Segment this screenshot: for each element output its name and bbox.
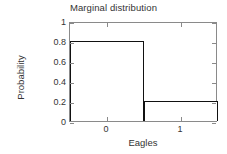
- y-tick-label: 0.2: [26, 97, 66, 107]
- y-axis-tick-right: [212, 83, 216, 84]
- x-axis-label: Eagles: [69, 137, 217, 148]
- y-axis-tick: [70, 103, 74, 104]
- chart-title: Marginal distribution: [0, 2, 227, 13]
- x-axis-tick-top: [181, 23, 182, 27]
- y-axis-tick: [70, 83, 74, 84]
- y-axis-tick-right: [212, 43, 216, 44]
- y-axis-label: Probability: [15, 34, 26, 122]
- y-tick-label-group: 00.20.40.60.81: [40, 22, 66, 122]
- y-axis-tick: [70, 43, 74, 44]
- bar: [70, 41, 144, 121]
- x-axis-tick: [107, 117, 108, 121]
- y-tick-label: 0.4: [26, 77, 66, 87]
- plot-inner-surface: [70, 23, 216, 121]
- x-tick-label: 0: [86, 124, 126, 134]
- x-tick-label: 1: [160, 124, 200, 134]
- y-axis-tick-right: [212, 63, 216, 64]
- plot-area: [69, 22, 217, 122]
- y-axis-tick-right: [212, 103, 216, 104]
- y-axis-tick-right: [212, 23, 216, 24]
- y-tick-label: 0.8: [26, 37, 66, 47]
- chart-figure: Marginal distribution Probability Eagles…: [0, 0, 227, 154]
- y-axis-tick: [70, 63, 74, 64]
- x-tick-label-group: 01: [69, 124, 217, 138]
- y-tick-label: 0: [26, 117, 66, 127]
- x-axis-tick-top: [107, 23, 108, 27]
- y-axis-tick: [70, 23, 74, 24]
- x-axis-tick: [181, 117, 182, 121]
- y-tick-label: 1: [26, 17, 66, 27]
- y-tick-label: 0.6: [26, 57, 66, 67]
